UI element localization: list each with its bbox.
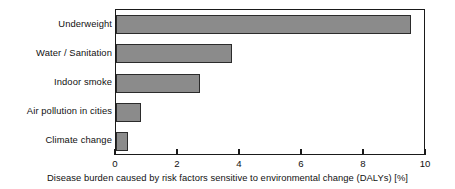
x-tick-label-8: 8 <box>360 158 365 169</box>
bar-chart: Underweight Water / Sanitation Indoor sm… <box>0 0 455 189</box>
x-tick-label-2: 2 <box>174 158 179 169</box>
x-tick-mark-8 <box>362 149 363 155</box>
x-tick-label-6: 6 <box>298 158 303 169</box>
x-tick-mark-2 <box>176 149 177 155</box>
x-tick-label-0: 0 <box>112 158 117 169</box>
x-tick-mark-10 <box>424 149 425 155</box>
x-tick-mark-6 <box>300 149 301 155</box>
x-tick-label-10: 10 <box>420 158 431 169</box>
x-axis-title: Disease burden caused by risk factors se… <box>0 172 455 183</box>
x-axis-ticks: 0 2 4 6 8 10 <box>0 0 455 189</box>
x-tick-label-4: 4 <box>236 158 241 169</box>
x-tick-mark-0 <box>114 149 115 155</box>
x-tick-mark-4 <box>238 149 239 155</box>
